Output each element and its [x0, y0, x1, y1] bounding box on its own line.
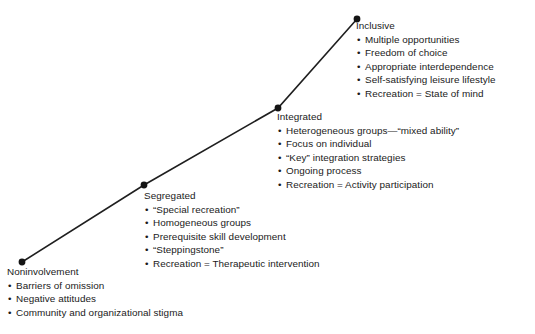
stage-block-noninvolvement: Noninvolvement •Barriers of omission •Ne…: [7, 265, 183, 319]
list-item-label: “Special recreation”: [153, 204, 240, 215]
stage-title-inclusive: Inclusive: [356, 19, 496, 33]
list-item-label: Recreation = State of mind: [365, 88, 484, 99]
list-item: •Ongoing process: [277, 164, 459, 178]
bullet-icon: •: [145, 216, 149, 230]
list-item-label: Community and organizational stigma: [16, 307, 183, 318]
stage-node-segregated[interactable]: [141, 182, 148, 189]
list-item-label: Ongoing process: [286, 165, 361, 176]
list-item-label: Prerequisite skill development: [153, 231, 286, 242]
bullet-icon: •: [278, 137, 282, 151]
bullet-icon: •: [278, 164, 282, 178]
list-item: •Self-satisfying leisure lifestyle: [356, 73, 496, 87]
list-item: •Multiple opportunities: [356, 33, 496, 47]
bullet-icon: •: [357, 87, 361, 101]
stage-list-integrated: •Heterogeneous groups—“mixed ability” •F…: [277, 124, 459, 192]
bullet-icon: •: [278, 124, 282, 138]
list-item-label: “Key” integration strategies: [286, 152, 405, 163]
list-item-label: Barriers of omission: [16, 280, 104, 291]
bullet-icon: •: [145, 257, 149, 271]
list-item-label: Negative attitudes: [16, 293, 96, 304]
stage-list-segregated: •“Special recreation” •Homogeneous group…: [144, 203, 320, 271]
bullet-icon: •: [145, 243, 149, 257]
list-item-label: Recreation = Therapeutic intervention: [153, 258, 320, 269]
list-item: •Recreation = State of mind: [356, 87, 496, 101]
bullet-icon: •: [8, 306, 12, 320]
list-item-label: Appropriate interdependence: [365, 61, 494, 72]
stage-list-inclusive: •Multiple opportunities •Freedom of choi…: [356, 33, 496, 101]
list-item: •Prerequisite skill development: [144, 230, 320, 244]
list-item: •“Key” integration strategies: [277, 151, 459, 165]
list-item: •“Steppingstone”: [144, 243, 320, 257]
bullet-icon: •: [8, 279, 12, 293]
bullet-icon: •: [357, 33, 361, 47]
list-item: •Negative attitudes: [7, 292, 183, 306]
bullet-icon: •: [357, 73, 361, 87]
list-item-label: Homogeneous groups: [153, 217, 251, 228]
stage-block-inclusive: Inclusive •Multiple opportunities •Freed…: [356, 19, 496, 101]
bullet-icon: •: [357, 46, 361, 60]
bullet-icon: •: [278, 151, 282, 165]
list-item: •“Special recreation”: [144, 203, 320, 217]
list-item-label: Freedom of choice: [365, 47, 448, 58]
list-item-label: Heterogeneous groups—“mixed ability”: [286, 125, 459, 136]
list-item: •Recreation = Activity participation: [277, 178, 459, 192]
bullet-icon: •: [357, 60, 361, 74]
list-item-label: Multiple opportunities: [365, 34, 459, 45]
list-item: •Homogeneous groups: [144, 216, 320, 230]
bullet-icon: •: [278, 178, 282, 192]
list-item: •Barriers of omission: [7, 279, 183, 293]
list-item: •Recreation = Therapeutic intervention: [144, 257, 320, 271]
list-item: •Focus on individual: [277, 137, 459, 151]
list-item: •Appropriate interdependence: [356, 60, 496, 74]
bullet-icon: •: [145, 230, 149, 244]
list-item: •Community and organizational stigma: [7, 306, 183, 320]
stage-title-integrated: Integrated: [277, 110, 459, 124]
stage-list-noninvolvement: •Barriers of omission •Negative attitude…: [7, 279, 183, 320]
list-item-label: Self-satisfying leisure lifestyle: [365, 74, 496, 85]
list-item-label: Focus on individual: [286, 138, 372, 149]
list-item-label: Recreation = Activity participation: [286, 179, 433, 190]
stage-block-integrated: Integrated •Heterogeneous groups—“mixed …: [277, 110, 459, 192]
list-item: •Heterogeneous groups—“mixed ability”: [277, 124, 459, 138]
bullet-icon: •: [145, 203, 149, 217]
list-item: •Freedom of choice: [356, 46, 496, 60]
bullet-icon: •: [8, 292, 12, 306]
stage-block-segregated: Segregated •“Special recreation” •Homoge…: [144, 189, 320, 271]
list-item-label: “Steppingstone”: [153, 244, 223, 255]
